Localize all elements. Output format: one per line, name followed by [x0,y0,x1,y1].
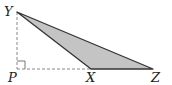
right-angle-marker [17,61,25,69]
label-X: X [85,70,96,85]
triangle-XYZ [17,12,153,69]
triangle-diagram: Y P X Z [0,0,172,85]
label-Y: Y [4,4,14,19]
label-Z: Z [150,70,161,85]
label-P: P [7,70,17,85]
